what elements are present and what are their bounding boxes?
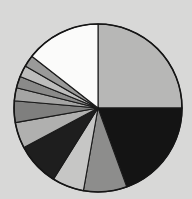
pie-chart-svg [0,0,192,199]
pie-slice-1 [98,24,182,108]
pie-slice-group [14,24,182,192]
pie-chart-figure [0,0,192,199]
